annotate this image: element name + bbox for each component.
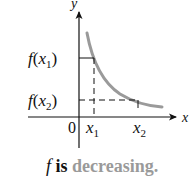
fx1-label: f(x1)	[28, 49, 57, 70]
x2-label: x2	[132, 118, 146, 139]
decreasing-function-diagram: y x f(x1) f(x2) 0 x1 x2 f is decreasing.	[0, 0, 190, 185]
x-axis-label: x	[181, 110, 189, 125]
origin-label: 0	[68, 119, 76, 136]
fx2-label: f(x2)	[28, 91, 57, 112]
y-axis-label: y	[69, 0, 78, 11]
x1-label: x1	[85, 118, 99, 139]
decreasing-curve	[87, 33, 162, 107]
caption: f is decreasing.	[46, 156, 158, 176]
